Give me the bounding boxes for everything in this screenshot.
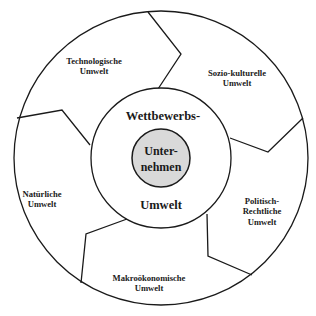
label-line: nehmen (141, 159, 182, 175)
label-natuerliche-umwelt: Natürliche Umwelt (22, 189, 61, 210)
label-unternehmen: Unter- nehmen (141, 143, 182, 175)
divider-top (148, 12, 181, 89)
divider-upper-left (17, 110, 90, 145)
label-makrooekonomische-umwelt: Makroökonomische Umwelt (113, 273, 186, 294)
label-line: Natürliche (22, 189, 61, 199)
label-line: Umwelt (22, 199, 61, 209)
label-line: Politisch- (243, 196, 282, 206)
label-technologische-umwelt: Technologische Umwelt (66, 56, 122, 77)
label-sozio-kulturelle-umwelt: Sozio-kulturelle Umwelt (208, 68, 266, 89)
label-line: Technologische (66, 56, 122, 66)
label-line: Rechtliche (243, 206, 282, 216)
environment-diagram: Technologische Umwelt Sozio-kulturelle U… (0, 0, 316, 316)
label-line: Umwelt (208, 78, 266, 88)
divider-right (230, 118, 303, 152)
label-politisch-rechtliche-umwelt: Politisch- Rechtliche Umwelt (243, 196, 282, 227)
label-wettbewerbs-umwelt: Umwelt (140, 198, 182, 213)
label-line: Umwelt (113, 283, 186, 293)
label-line: Umwelt (66, 66, 122, 76)
label-line: Makroökonomische (113, 273, 186, 283)
label-wettbewerbs: Wettbewerbs- (126, 109, 200, 124)
label-line: Sozio-kulturelle (208, 68, 266, 78)
label-line: Unter- (141, 143, 182, 159)
label-line: Umwelt (243, 216, 282, 226)
